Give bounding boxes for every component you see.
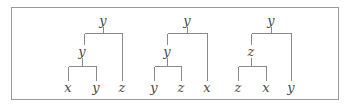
tree-2-root-label: y bbox=[182, 13, 191, 28]
tree-1-leaf-3: z bbox=[118, 80, 126, 95]
tree-3-inner-label: z bbox=[247, 44, 255, 59]
tree-1-root-label: y bbox=[98, 13, 107, 28]
tree-2-inner-label: y bbox=[162, 44, 171, 59]
tree-2: y y y z x bbox=[149, 13, 211, 95]
tree-3-root-label: y bbox=[266, 13, 275, 28]
tree-3-leaf-3: y bbox=[286, 80, 295, 95]
tree-diagrams: y y x y z y y y z x y z bbox=[0, 0, 348, 105]
tree-3-leaf-1: z bbox=[234, 80, 242, 95]
tree-2-leaf-1: y bbox=[149, 80, 158, 95]
tree-1-leaf-2: y bbox=[91, 80, 100, 95]
tree-1: y y x y z bbox=[64, 13, 125, 95]
tree-3-leaf-2: x bbox=[262, 80, 270, 95]
tree-2-leaf-3: x bbox=[203, 80, 211, 95]
tree-1-leaf-1: x bbox=[64, 80, 72, 95]
tree-1-inner-label: y bbox=[77, 44, 86, 59]
tree-3: y z z x y bbox=[234, 13, 296, 95]
tree-2-leaf-2: z bbox=[177, 80, 185, 95]
